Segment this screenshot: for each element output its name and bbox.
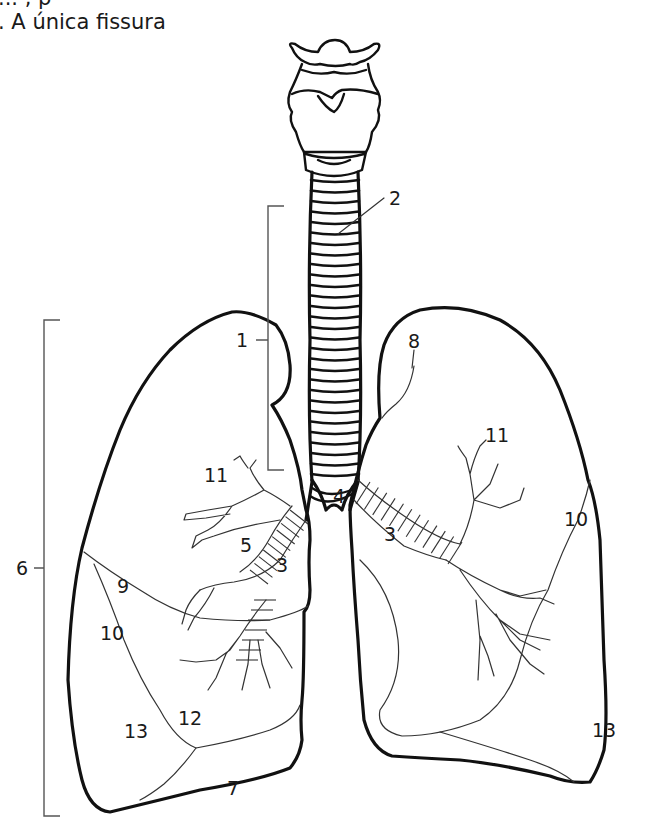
leader-8	[412, 350, 414, 368]
left-apex-fissure	[382, 366, 414, 418]
trachea	[306, 172, 361, 520]
label-12: 12	[178, 707, 202, 729]
trachea-ring	[311, 306, 359, 308]
trachea-ring	[311, 422, 359, 424]
trachea-ring	[311, 212, 359, 214]
label-9: 9	[117, 575, 129, 597]
trachea-ring	[311, 359, 359, 361]
thyroid-notch	[292, 90, 378, 99]
left-main-bronchus	[354, 480, 460, 560]
label-4: 4	[333, 485, 345, 507]
label-11-left-lung: 11	[485, 424, 509, 446]
trachea-ring	[311, 254, 359, 256]
label-10-left-lung: 10	[564, 508, 588, 530]
trachea-left-wall	[306, 172, 312, 520]
bronchus-ring	[448, 542, 462, 564]
trachea-ring	[311, 285, 359, 287]
label-1: 1	[236, 329, 248, 351]
label-3-left-bronchus: 3	[384, 523, 396, 545]
trachea-rings	[311, 180, 359, 476]
hyoid-bone	[290, 40, 379, 66]
trachea-ring	[311, 453, 359, 455]
label-10-right-lung: 10	[100, 622, 124, 644]
trachea-ring	[311, 201, 359, 203]
trachea-ring	[311, 243, 359, 245]
bracket-1	[256, 206, 284, 470]
thyroid-cartilage	[288, 64, 380, 152]
trachea-ring	[311, 275, 359, 277]
cricoid-arch	[318, 160, 350, 164]
trachea-ring	[311, 443, 359, 445]
label-5: 5	[240, 534, 252, 556]
right-lung-outline	[68, 312, 310, 812]
label-11-right-lung: 11	[204, 464, 228, 486]
label-8: 8	[408, 330, 420, 352]
trachea-ring	[311, 233, 359, 235]
trachea-ring	[311, 432, 359, 434]
bracket-6	[34, 320, 60, 816]
label-7: 7	[227, 777, 239, 799]
right-main-bronchus	[200, 506, 306, 590]
thyrohyoid-membrane	[302, 70, 366, 74]
trachea-ring	[311, 338, 359, 340]
trachea-ring	[311, 369, 359, 371]
label-13-right-lung: 13	[124, 720, 148, 742]
trachea-ring	[311, 317, 359, 319]
trachea-ring	[311, 264, 359, 266]
right-lower-bronchial-tree	[180, 588, 292, 690]
trachea-ring	[311, 348, 359, 350]
label-6: 6	[16, 557, 28, 579]
trachea-ring	[311, 327, 359, 329]
left-lower-fissure-tail	[440, 732, 574, 782]
label-3-right-bronchus: 3	[276, 554, 288, 576]
trachea-ring	[311, 401, 359, 403]
trachea-ring	[311, 411, 359, 413]
bronchus-ring	[364, 487, 378, 509]
trachea-ring	[311, 296, 359, 298]
larynx	[288, 40, 380, 176]
bronchus-ring	[373, 493, 387, 515]
trachea-ring	[311, 191, 359, 193]
left-upper-bronchial-tree	[458, 440, 524, 544]
left-bronchus-rings	[356, 482, 462, 564]
right-lung	[68, 312, 310, 812]
trachea-ring	[311, 474, 359, 476]
trachea-ring	[311, 180, 359, 182]
respiratory-system-diagram: 1 2 3 3 4 5 6 7 8 9 10 10 11 11 12 13 13	[0, 0, 656, 836]
trachea-ring	[311, 464, 359, 466]
bronchus-ring	[415, 520, 429, 542]
left-lower-bronchial-tree	[446, 560, 554, 680]
trachea-ring	[311, 380, 359, 382]
label-2: 2	[389, 187, 401, 209]
label-13-left-lung: 13	[592, 719, 616, 741]
trachea-ring	[311, 390, 359, 392]
